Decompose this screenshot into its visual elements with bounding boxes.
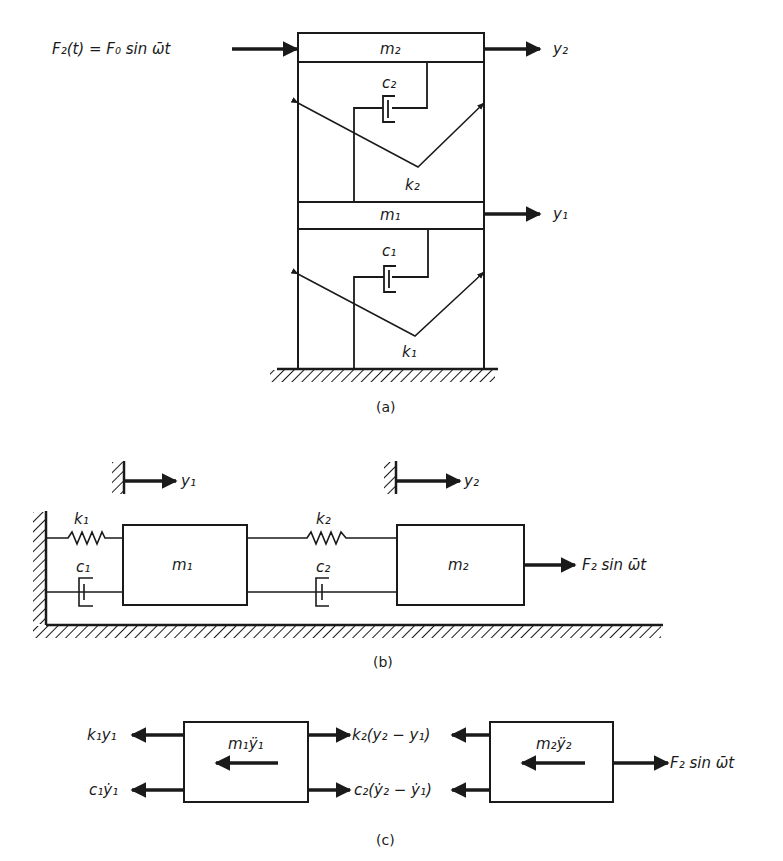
force-label-a: F₂(t) = F₀ sin ω̄t [52,40,172,58]
mass-m1-label-b: m₁ [172,556,193,574]
force-label-c: F₂ sin ω̄t [670,754,735,772]
damper-c1-label: c₁ [382,242,396,260]
inertia-m2-label: m₂ÿ₂ [536,735,572,753]
damper-c2-label-b: c₂ [316,558,330,576]
mass-m2-label-b: m₂ [448,556,469,574]
spring-k1-label: k₁ [402,343,417,361]
part-b-spring-mass-model [33,461,663,638]
spring-k2-label: k₂ [405,176,420,194]
force-c2-diff-label: c₂(ẏ₂ − ẏ₁) [354,781,432,799]
spring-k2-label-b: k₂ [316,510,331,528]
ref-y2-label: y₂ [463,472,479,490]
spring-k1-label-b: k₁ [74,510,89,528]
two-dof-system-figure: F₂(t) = F₀ sin ω̄t m₂ m₁ c₂ k₂ c₁ k₁ y₂ … [0,0,783,861]
caption-c: (c) [376,832,395,848]
ref-y1-label: y₁ [180,472,196,490]
damper-c1-label-b: c₁ [76,558,90,576]
disp-y2-label: y₂ [552,40,568,58]
inertia-m1-label: m₁ÿ₁ [228,735,264,753]
disp-y1-label: y₁ [552,205,568,223]
damper-c2-label: c₂ [382,74,396,92]
caption-b: (b) [373,654,393,670]
mass-m2-label: m₂ [380,40,401,58]
mass-m1-label: m₁ [380,206,401,224]
caption-a: (a) [376,399,396,415]
force-label-b: F₂ sin ω̄t [582,556,647,574]
force-k1y1-label: k₁y₁ [87,726,117,744]
force-k2-diff-label: k₂(y₂ − y₁) [352,726,430,744]
force-c1y1dot-label: c₁ẏ₁ [89,781,118,799]
